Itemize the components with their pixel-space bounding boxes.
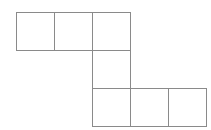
bottom-mid-square xyxy=(131,89,169,127)
net-cells-group xyxy=(17,13,207,127)
polyomino-net-diagram: Hexomino net of six unit squares Six equ… xyxy=(0,0,211,130)
top-middle-square xyxy=(55,13,93,51)
polyomino-figure-canvas: Hexomino net of six unit squares Six equ… xyxy=(0,0,211,130)
top-right-square xyxy=(93,13,131,51)
top-left-square xyxy=(17,13,55,51)
connector-square xyxy=(93,51,131,89)
bottom-left-square xyxy=(93,89,131,127)
bottom-right-square xyxy=(169,89,207,127)
